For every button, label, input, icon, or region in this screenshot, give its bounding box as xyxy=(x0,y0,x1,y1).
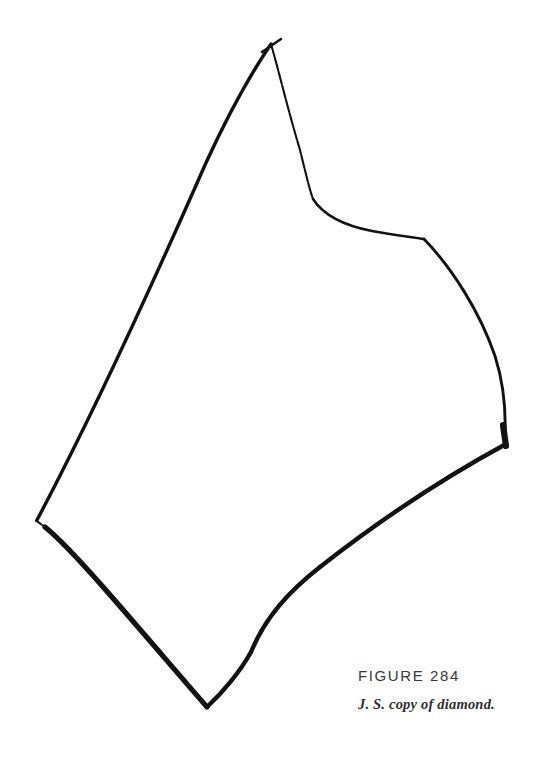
figure-caption-block: FIGURE 284 J. S. copy of diamond. xyxy=(358,668,528,712)
diamond-drawing xyxy=(0,0,544,757)
paper-background xyxy=(0,0,544,757)
figure-caption-text: J. S. copy of diamond. xyxy=(358,696,528,713)
figure-page: FIGURE 284 J. S. copy of diamond. xyxy=(0,0,544,757)
figure-number-label: FIGURE 284 xyxy=(358,668,528,685)
